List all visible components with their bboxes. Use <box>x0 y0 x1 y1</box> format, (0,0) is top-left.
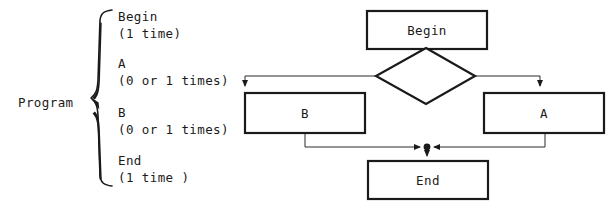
flow-node-end-label: End <box>368 173 488 188</box>
flow-node-a-label: A <box>484 106 604 121</box>
flow-junction-dot <box>424 144 431 151</box>
brace-entry-name: Begin <box>118 8 181 25</box>
flow-node-decision <box>376 48 475 104</box>
brace-entry-name: B <box>118 104 229 121</box>
brace-entry-name: A <box>118 55 229 72</box>
flowchart-diagram: Begin B A End <box>230 0 616 210</box>
brace-entry: A (0 or 1 times) <box>118 55 229 89</box>
brace-entry-count: (1 time ) <box>118 169 189 186</box>
figure-canvas: Program Begin (1 time) A (0 or 1 times) … <box>0 0 616 210</box>
brace-entry: B (0 or 1 times) <box>118 104 229 138</box>
flow-node-begin-label: Begin <box>367 23 487 38</box>
brace-entry-count: (1 time) <box>118 25 181 42</box>
brace-entry: End (1 time ) <box>118 152 189 186</box>
flow-node-b-label: B <box>245 106 365 121</box>
brace-entry-name: End <box>118 152 189 169</box>
brace-entry-count: (0 or 1 times) <box>118 121 229 138</box>
program-root-label: Program <box>18 95 73 110</box>
brace-entry: Begin (1 time) <box>118 8 181 42</box>
brace-entry-count: (0 or 1 times) <box>118 72 229 89</box>
